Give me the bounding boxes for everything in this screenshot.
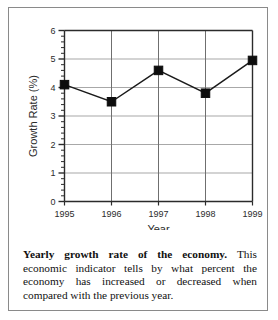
y-tick-label: 2 — [50, 140, 55, 150]
caption-lead: Yearly growth rate of the economy. — [23, 248, 227, 260]
chart-area: 0123456 19951996199719981999 Growth Rate… — [9, 8, 267, 230]
y-axis-tick-labels: 0123456 — [50, 26, 55, 207]
figure-caption: Yearly growth rate of the economy. This … — [23, 248, 257, 302]
y-tick-label: 3 — [50, 111, 55, 121]
y-axis-title: Growth Rate (%) — [27, 75, 39, 157]
x-tick-label: 1996 — [101, 209, 121, 219]
x-axis-title: Year — [147, 223, 170, 231]
x-tick-label: 1995 — [54, 209, 74, 219]
y-tick-label: 5 — [50, 54, 55, 64]
y-tick-label: 0 — [50, 197, 55, 207]
x-tick-label: 1999 — [242, 209, 262, 219]
figure-panel: 0123456 19951996199719981999 Growth Rate… — [8, 7, 268, 311]
y-tick-label: 4 — [50, 83, 55, 93]
y-axis-major-ticks — [59, 31, 65, 202]
growth-rate-line-chart: 0123456 19951996199719981999 Growth Rate… — [9, 8, 267, 230]
x-axis-tick-labels: 19951996199719981999 — [54, 209, 262, 219]
x-tick-label: 1997 — [148, 209, 168, 219]
x-tick-label: 1998 — [195, 209, 215, 219]
y-tick-label: 6 — [50, 26, 55, 36]
y-tick-label: 1 — [50, 168, 55, 178]
